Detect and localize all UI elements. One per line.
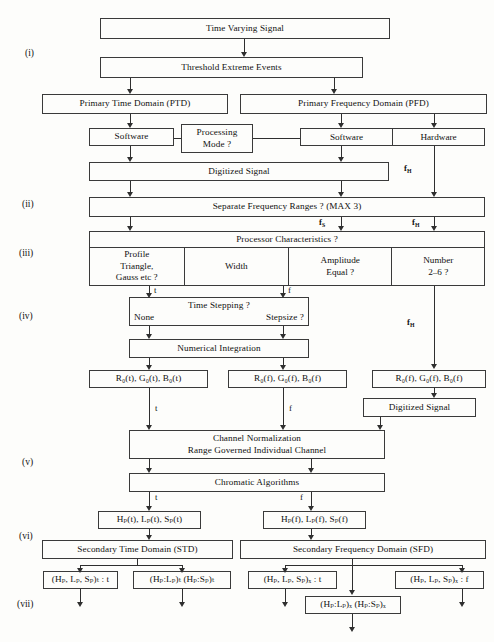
cell-width: Width <box>185 248 289 285</box>
channel-normalization-line2: Range Governed Individual Channel <box>130 445 384 456</box>
arrowhead-numint-to-rgb-mid <box>280 365 286 370</box>
node-hardware-right: Hardware <box>393 129 484 145</box>
channel-normalization-line1: Channel Normalization <box>130 433 384 444</box>
stage-label-ii: (ii) <box>22 199 34 209</box>
edge-label-f-proc: f <box>288 285 291 295</box>
node-std-pairs-t: (Hₚ:Lₚ)ₜ (Hₚ:Sₚ)ₜ <box>133 571 231 589</box>
arrowhead-sfr-to-proc-right <box>431 226 437 231</box>
cell-profile-line3: Gauss etc ? <box>116 272 158 284</box>
arrowhead-digsig-to-sfr-left <box>127 192 133 197</box>
arrowhead-std-left <box>77 568 83 573</box>
node-rgb-time: R₀(t), G₀(t), B₀(t) <box>89 370 208 388</box>
edge-label-t-chroma: t <box>155 492 157 502</box>
node-software-left: Software <box>89 128 174 146</box>
arrowhead-digsig-to-sfr-right <box>338 192 344 197</box>
edge-label-f-rgb: f <box>289 403 292 413</box>
edge-label-fh-mid: fH <box>412 217 419 228</box>
time-stepping-stepsize: Stepsize ? <box>266 312 304 323</box>
node-time-stepping: Time Stepping ? None Stepsize ? <box>129 297 309 326</box>
channel-normalization-inner: Channel Normalization Range Governed Ind… <box>130 431 384 458</box>
arrowhead-pfd-to-hardware <box>431 123 437 128</box>
node-separate-frequency-ranges: Separate Frequency Ranges ? (MAX 3) <box>89 197 485 217</box>
cell-amplitude-line1: Amplitude <box>321 255 360 267</box>
bus-std <box>80 565 182 566</box>
arrowhead-software-right-down <box>338 157 344 162</box>
arrowhead-sfd-triplet-t-out <box>282 602 288 607</box>
arrowhead-rgb-right-to-digsig <box>431 393 437 398</box>
edge-label-t-proc: t <box>154 285 156 295</box>
node-numerical-integration: Numerical Integration <box>129 339 309 358</box>
arrowhead-sfd-center <box>349 590 355 595</box>
node-sfd-pairs-f: (Hₚ:Lₚ)ₓ (Hₚ:Sₚ)ₓ <box>305 596 401 614</box>
arrowhead-tee-to-pfd <box>331 89 337 94</box>
processing-mode-line1: Processing <box>197 127 238 138</box>
processor-characteristics-row: Profile Triangle, Gauss etc ? Width Ampl… <box>89 247 485 286</box>
arrowhead-proc-to-timestep-left <box>146 293 152 298</box>
node-sfd-triplet-t: (Hₚ, Lₚ, Sₚ)ₓ : t <box>248 571 337 589</box>
node-processor-characteristics: Processor Characteristics ? <box>89 231 485 248</box>
arrowhead-chroma-to-hls-time <box>146 506 152 511</box>
arrowhead-sfr-to-proc-mid <box>338 226 344 231</box>
node-software-right: Software <box>301 129 393 145</box>
stage-label-v: (v) <box>22 457 33 467</box>
edge-label-t-rgb: t <box>155 403 157 413</box>
node-secondary-frequency-domain: Secondary Frequency Domain (SFD) <box>240 540 486 559</box>
stage-label-i: (i) <box>25 48 34 58</box>
arrowhead-sfr-to-proc-left <box>127 226 133 231</box>
stage-label-iii: (iii) <box>19 248 33 258</box>
arrowhead-hls-time-to-std <box>146 535 152 540</box>
arrowhead-rgb-freq-down <box>280 425 286 430</box>
bus-sfd <box>285 565 462 566</box>
node-channel-normalization: Channel Normalization Range Governed Ind… <box>129 430 385 459</box>
stage-label-iv: (iv) <box>19 311 33 321</box>
arrowhead-rgb-time-down <box>146 425 152 430</box>
arrowhead-std-right <box>179 568 185 573</box>
arrowhead-chnorm-to-chroma-right <box>308 468 314 473</box>
cell-profile: Profile Triangle, Gauss etc ? <box>90 248 185 285</box>
arrowhead-timestep-to-numint-left <box>146 334 152 339</box>
node-rgb-freq-right: R₀(f), G₀(f), B₀(f) <box>372 370 486 388</box>
arrowhead-std-triplet-out <box>77 602 83 607</box>
processing-mode-line2: Mode ? <box>203 139 231 150</box>
arrowhead-sfd-left <box>282 568 288 573</box>
arrowhead-pfd-to-software-right <box>338 123 344 128</box>
arrowhead-proc-fh-long <box>431 364 437 369</box>
cell-profile-line1: Profile <box>124 249 149 261</box>
arrowhead-tvs-to-tee <box>241 52 247 57</box>
arrowhead-digsig-right-down <box>377 425 383 430</box>
node-software-hardware-pair: Software Hardware <box>300 128 485 146</box>
time-stepping-inner: Time Stepping ? None Stepsize ? <box>130 298 308 325</box>
arrowhead-hardware-fh <box>431 192 437 197</box>
edge-mode-to-software-right <box>253 138 301 139</box>
node-secondary-time-domain: Secondary Time Domain (STD) <box>42 540 233 559</box>
node-primary-time-domain: Primary Time Domain (PTD) <box>42 94 228 114</box>
cell-number: Number 2–6 ? <box>392 248 484 285</box>
node-hls-freq: Hₚ(f), Lₚ(f), Sₚ(f) <box>263 511 366 529</box>
flowchart-canvas: (i) (ii) (iii) (iv) (v) (vi) (vii) Time … <box>0 0 494 642</box>
arrowhead-chroma-to-hls-freq <box>308 506 314 511</box>
cell-amplitude: Amplitude Equal ? <box>289 248 392 285</box>
node-chromatic-algorithms: Chromatic Algorithms <box>129 473 385 492</box>
node-digitized-signal-top: Digitized Signal <box>89 162 389 181</box>
arrowhead-sfd-right <box>459 568 465 573</box>
node-rgb-freq-mid: R₀(f), G₀(f), B₀(f) <box>228 370 347 388</box>
arrowhead-numint-to-rgb-left <box>146 365 152 370</box>
arrowhead-sfd-triplet-f-out <box>459 602 465 607</box>
edge-rgb-time-down <box>149 388 150 428</box>
arrowhead-std-pairs-out <box>179 602 185 607</box>
stage-label-vii: (vii) <box>17 599 33 609</box>
cell-number-line2: 2–6 ? <box>428 267 448 279</box>
node-time-varying-signal: Time Varying Signal <box>100 18 390 39</box>
cell-number-line1: Number <box>423 255 453 267</box>
arrowhead-proc-to-timestep-right <box>280 293 286 298</box>
edge-sfd-center-drop <box>352 565 353 593</box>
arrowhead-ptd-to-software-left <box>127 123 133 128</box>
edge-label-f-chroma: f <box>300 492 303 502</box>
node-digitized-signal-right: Digitized Signal <box>363 398 476 417</box>
edge-proc-fh-long <box>434 286 435 367</box>
node-std-triplet-t: (Hₚ, Lₚ, Sₚ)ₜ : t <box>43 571 118 589</box>
cell-profile-line2: Triangle, <box>120 261 153 273</box>
node-hls-time: Hₚ(t), Lₚ(t), Sₚ(t) <box>98 511 201 529</box>
edge-std-stem <box>137 559 138 566</box>
arrowhead-tee-to-ptd <box>127 89 133 94</box>
